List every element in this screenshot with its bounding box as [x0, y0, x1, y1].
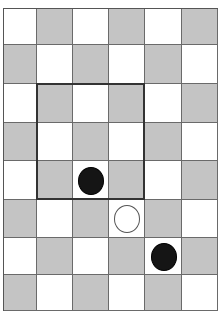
board-square[interactable]	[182, 161, 218, 200]
board-square[interactable]	[145, 161, 182, 200]
board-square[interactable]	[37, 238, 73, 275]
board-square[interactable]	[37, 123, 73, 161]
board-square[interactable]	[37, 45, 73, 84]
board-square[interactable]	[145, 45, 182, 84]
board-square[interactable]	[145, 84, 182, 123]
game-board	[3, 8, 218, 311]
board-square[interactable]	[4, 238, 37, 275]
board-square[interactable]	[37, 200, 73, 238]
black-piece[interactable]	[78, 167, 104, 195]
board-square[interactable]	[37, 9, 73, 45]
board-square[interactable]	[109, 9, 145, 45]
board-square[interactable]	[4, 84, 37, 123]
board-square[interactable]	[37, 275, 73, 311]
board-square[interactable]	[4, 45, 37, 84]
board-square[interactable]	[73, 45, 109, 84]
board-square[interactable]	[4, 9, 37, 45]
board-square[interactable]	[73, 238, 109, 275]
black-piece[interactable]	[151, 243, 177, 271]
board-square[interactable]	[109, 123, 145, 161]
board-square[interactable]	[109, 45, 145, 84]
board-square[interactable]	[182, 84, 218, 123]
board-square[interactable]	[182, 200, 218, 238]
board-square[interactable]	[145, 123, 182, 161]
board-square[interactable]	[145, 9, 182, 45]
board-square[interactable]	[109, 275, 145, 311]
board-square[interactable]	[109, 84, 145, 123]
board-square[interactable]	[73, 84, 109, 123]
board-square[interactable]	[145, 275, 182, 311]
board-square[interactable]	[145, 200, 182, 238]
board-square[interactable]	[73, 275, 109, 311]
board-square[interactable]	[182, 275, 218, 311]
board-square[interactable]	[37, 161, 73, 200]
white-piece[interactable]	[114, 205, 140, 233]
board-square[interactable]	[73, 9, 109, 45]
board-square[interactable]	[37, 84, 73, 123]
board-square[interactable]	[182, 45, 218, 84]
board-square[interactable]	[109, 161, 145, 200]
board-square[interactable]	[4, 123, 37, 161]
board-square[interactable]	[182, 9, 218, 45]
board-square[interactable]	[4, 275, 37, 311]
board-square[interactable]	[182, 123, 218, 161]
board-square[interactable]	[73, 123, 109, 161]
board-square[interactable]	[109, 238, 145, 275]
board-square[interactable]	[182, 238, 218, 275]
board-square[interactable]	[4, 161, 37, 200]
board-square[interactable]	[73, 200, 109, 238]
board-square[interactable]	[4, 200, 37, 238]
